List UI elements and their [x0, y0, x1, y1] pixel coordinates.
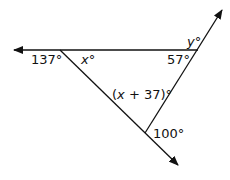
label-100: 100°: [153, 126, 184, 141]
label-137: 137°: [31, 52, 62, 67]
label-x: x°: [80, 52, 95, 67]
diagonal-right-line: [145, 10, 222, 133]
label-57: 57°: [167, 52, 190, 67]
triangle-diagram: 137° x° 57° y° (x + 37)° 100°: [0, 0, 230, 180]
label-x-plus-37: (x + 37)°: [112, 87, 172, 102]
label-y: y°: [186, 34, 201, 49]
